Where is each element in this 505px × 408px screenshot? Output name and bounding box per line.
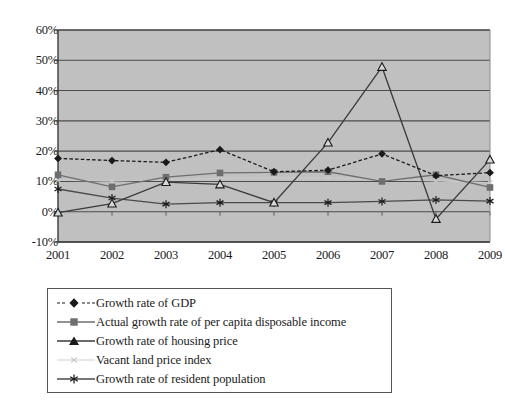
line-chart-figure: 60%50%40%30%20%10%0%-10% 200120022003200… (0, 0, 505, 408)
x-tick-label: 2005 (262, 248, 286, 262)
x-tick-label: 2004 (208, 248, 232, 262)
triangle-icon (56, 334, 96, 348)
legend-item-label: Vacant land price index (96, 353, 211, 367)
data-point-square (109, 184, 116, 191)
x-tick-label: 2001 (46, 248, 70, 262)
x-tick-label: 2008 (424, 248, 448, 262)
square-icon (56, 315, 96, 329)
legend-item[interactable]: Actual growth rate of per capita disposa… (48, 312, 391, 331)
plot-block: 60%50%40%30%20%10%0%-10% 200120022003200… (0, 0, 505, 280)
x-tick-label: 2007 (370, 248, 394, 262)
chart-legend: Growth rate of GDP Actual growth rate of… (47, 288, 392, 393)
diamond-icon (56, 296, 96, 310)
data-point-square (487, 184, 494, 191)
small-x-icon (56, 353, 96, 367)
legend-item[interactable]: Vacant land price index (48, 350, 391, 369)
legend-item-label: Growth rate of resident population (96, 372, 265, 386)
legend-item-label: Growth rate of GDP (96, 296, 196, 310)
legend-item-label: Actual growth rate of per capita disposa… (96, 315, 346, 329)
legend-item[interactable]: Growth rate of housing price (48, 331, 391, 350)
data-point-square (379, 178, 386, 185)
x-tick-label: 2002 (100, 248, 124, 262)
asterisk-icon (56, 372, 96, 386)
x-axis-tick-labels: 200120022003200420052006200720082009 (0, 248, 505, 268)
legend-item-label: Growth rate of housing price (96, 334, 238, 348)
legend-item[interactable]: Growth rate of GDP (48, 293, 391, 312)
data-point-square (217, 170, 224, 177)
data-point-square (55, 171, 62, 178)
legend-item[interactable]: Growth rate of resident population (48, 369, 391, 388)
x-tick-label: 2006 (316, 248, 340, 262)
x-tick-label: 2003 (154, 248, 178, 262)
plot-area-background (58, 30, 490, 242)
plot-canvas (0, 0, 505, 280)
x-tick-label: 2009 (478, 248, 502, 262)
